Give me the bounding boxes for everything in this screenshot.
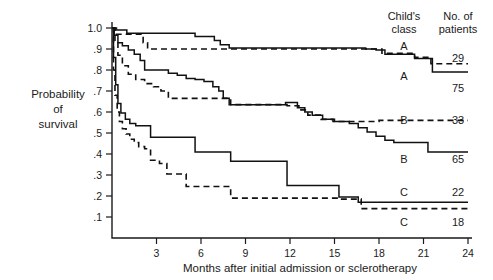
- y-axis-title-line-1: Probability: [31, 88, 85, 100]
- legend-count-a-29: 29: [452, 52, 464, 64]
- y-tick-label-p5: .5: [93, 127, 102, 139]
- legend-class-a-29: A: [400, 40, 408, 52]
- x-tick-label-18: 18: [373, 247, 385, 259]
- y-axis-title-line-2: of: [53, 103, 63, 115]
- y-tick-label-p3: .3: [93, 169, 102, 181]
- x-tick-label-9: 9: [243, 247, 249, 259]
- y-tick-label-p1: .1: [93, 211, 102, 223]
- x-tick-label-12: 12: [284, 247, 296, 259]
- legend-class-c-18: C: [400, 216, 408, 228]
- legend-class-b-33: B: [400, 114, 407, 126]
- y-tick-label-p2: .2: [93, 190, 102, 202]
- x-tick-label-6: 6: [198, 247, 204, 259]
- x-tick-label-21: 21: [418, 247, 430, 259]
- y-tick-label-p9: .9: [93, 43, 102, 55]
- legend-class-c-22: C: [400, 186, 408, 198]
- legend-count-b-65: 65: [452, 153, 464, 165]
- y-tick-label-p8: .8: [93, 64, 102, 76]
- y-tick-label-p4: .4: [93, 148, 102, 160]
- y-tick-label-1p0: 1.0: [87, 22, 102, 34]
- legend-count-a-75: 75: [452, 82, 464, 94]
- survival-chart-svg: .1.2.3.4.5.6.7.8.91.0 3691215182124 Chil…: [0, 0, 493, 280]
- legend-count-c-18: 18: [452, 216, 464, 228]
- survival-chart-figure: .1.2.3.4.5.6.7.8.91.0 3691215182124 Chil…: [0, 0, 493, 280]
- y-axis-title-line-3: survival: [39, 118, 78, 130]
- legend-header-3: No. of: [443, 10, 473, 22]
- x-axis-title-label: Months after initial admission or sclero…: [183, 262, 417, 274]
- legend-header-1: Child's: [388, 10, 421, 22]
- legend-header-2: class: [391, 23, 417, 35]
- x-tick-label-15: 15: [329, 247, 341, 259]
- legend-count-b-33: 33: [452, 114, 464, 126]
- y-tick-label-p6: .6: [93, 106, 102, 118]
- y-tick-label-p7: .7: [93, 85, 102, 97]
- legend-header-4: patients: [439, 23, 478, 35]
- legend-class-b-65: B: [400, 153, 407, 165]
- x-tick-label-3: 3: [154, 247, 160, 259]
- legend-count-c-22: 22: [452, 186, 464, 198]
- legend-class-a-75: A: [400, 70, 408, 82]
- x-tick-label-24: 24: [462, 247, 474, 259]
